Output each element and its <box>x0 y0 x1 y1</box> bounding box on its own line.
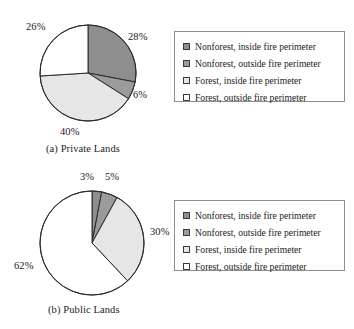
pie-slices-private-lands <box>40 25 136 121</box>
legend-item: Forest, inside fire perimeter <box>183 72 335 89</box>
slice-label-62: 62% <box>14 260 34 271</box>
slice-label-30: 30% <box>150 226 170 237</box>
pie-chart-private-lands <box>40 25 136 121</box>
swatch-dark-gray-icon <box>183 212 190 219</box>
legend-item: Nonforest, outside fire perimeter <box>183 55 335 72</box>
pie-slices-public-lands <box>40 191 144 295</box>
swatch-white-icon <box>183 263 190 270</box>
legend-item: Forest, outside fire perimeter <box>183 89 335 106</box>
legend-item-label: Forest, outside fire perimeter <box>195 92 306 103</box>
panel-caption-private-lands: (a) Private Lands <box>46 143 120 155</box>
swatch-light-gray-icon <box>183 246 190 253</box>
swatch-white-icon <box>183 94 190 101</box>
legend-item-label: Forest, inside fire perimeter <box>195 244 302 255</box>
slice-label-5: 5% <box>105 171 119 182</box>
swatch-mid-gray-icon <box>183 60 190 67</box>
legend-item-label: Nonforest, inside fire perimeter <box>195 41 316 52</box>
legend-item-label: Nonforest, outside fire perimeter <box>195 227 321 238</box>
swatch-light-gray-icon <box>183 77 190 84</box>
figure-panel-private-lands: 28% 6% 40% 26% (a) Private Lands Nonfore… <box>0 0 354 165</box>
legend-private-lands: Nonforest, inside fire perimeter Nonfore… <box>174 31 345 102</box>
legend-item: Nonforest, outside fire perimeter <box>183 224 335 241</box>
swatch-mid-gray-icon <box>183 229 190 236</box>
panel-caption-public-lands: (b) Public Lands <box>48 304 120 316</box>
legend-item: Forest, inside fire perimeter <box>183 241 335 258</box>
slice-label-28: 28% <box>128 31 148 42</box>
legend-item: Nonforest, inside fire perimeter <box>183 207 335 224</box>
legend-public-lands: Nonforest, inside fire perimeter Nonfore… <box>174 200 345 271</box>
slice-label-3: 3% <box>80 171 94 182</box>
slice-label-26: 26% <box>26 21 46 32</box>
legend-item-label: Forest, outside fire perimeter <box>195 261 306 272</box>
slice-label-40: 40% <box>60 126 80 137</box>
legend-item-label: Forest, inside fire perimeter <box>195 75 302 86</box>
slice-label-6: 6% <box>133 89 147 100</box>
legend-item: Forest, outside fire perimeter <box>183 258 335 275</box>
pie-slice <box>40 25 88 76</box>
figure-panel-public-lands: 3% 5% 30% 62% (b) Public Lands Nonforest… <box>0 164 354 329</box>
legend-item-label: Nonforest, inside fire perimeter <box>195 210 316 221</box>
swatch-dark-gray-icon <box>183 43 190 50</box>
legend-item-label: Nonforest, outside fire perimeter <box>195 58 321 69</box>
pie-chart-public-lands <box>40 191 144 295</box>
legend-item: Nonforest, inside fire perimeter <box>183 38 335 55</box>
